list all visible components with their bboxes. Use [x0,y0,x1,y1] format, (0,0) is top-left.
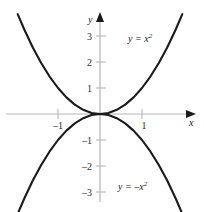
y-tick-label-neg1: –1 [69,135,92,146]
parabola-figure: x y –1 1 3 2 1 –1 –2 –3 y = x2 y = –x2 [0,0,204,212]
y-tick-label-2: 2 [72,57,92,68]
y-axis-arrowhead [96,12,104,22]
curve-label-up-exponent: 2 [149,32,153,40]
curve-label-up-text: y = x [128,33,149,44]
x-tick-label-neg1: –1 [48,120,68,131]
y-tick-label-1: 1 [72,83,92,94]
y-tick-label-neg3: –3 [69,187,92,198]
curve-label-parabola-down: y = –x2 [118,181,147,192]
y-axis-label: y [88,14,92,25]
curve-label-parabola-up: y = x2 [128,33,152,44]
y-tick-label-3: 3 [72,31,92,42]
y-tick-label-neg2: –2 [69,161,92,172]
curve-label-down-exponent: 2 [144,180,148,188]
x-tick-label-1: 1 [134,120,154,131]
x-axis-label: x [189,117,193,128]
plot-canvas [0,0,204,212]
curve-label-down-text: y = –x [118,181,144,192]
